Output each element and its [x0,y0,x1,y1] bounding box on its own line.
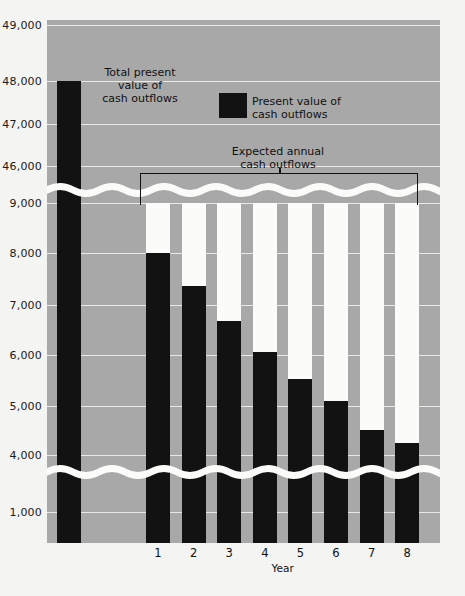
bar-present-value-cash-outflows [360,430,384,543]
y-axis-tick-label: 8,000 [0,247,47,260]
y-axis-tick-label: 5,000 [0,400,47,413]
annotation-total-present-value: Total present value of cash outflows [92,66,188,105]
gridline [47,25,440,26]
chart-figure: 49,00048,00047,00046,0009,0008,0007,0006… [0,0,465,596]
bar-expected-annual-cash-outflows [253,203,277,352]
bar-expected-annual-cash-outflows [182,203,206,286]
x-axis-tick-label: 4 [261,546,268,560]
bar-present-value-cash-outflows [182,286,206,543]
bar-present-value-cash-outflows [146,253,170,543]
expected-annual-bracket [140,173,418,205]
annotation-total-line1: Total present [92,66,188,79]
x-axis-tick-label: 3 [226,546,233,560]
legend-swatch-present-value [219,93,247,118]
bar-present-value-cash-outflows [395,443,419,543]
x-axis-tick-label: 8 [404,546,411,560]
legend-label-present-value: Present value of cash outflows [252,95,372,121]
y-axis-tick-label: 4,000 [0,449,47,462]
bar-total-present-value [57,81,81,543]
annotation-bracket-line2: cash outflows [216,158,340,171]
bar-present-value-cash-outflows [288,379,312,543]
annotation-bracket-line1: Expected annual [216,145,340,158]
y-axis-tick-label: 9,000 [0,197,47,210]
annotation-total-line3: cash outflows [92,92,188,105]
y-axis-tick-label: 1,000 [0,506,47,519]
bar-present-value-cash-outflows [217,321,241,543]
bar-expected-annual-cash-outflows [360,203,384,430]
y-axis-tick-label: 47,000 [0,118,47,131]
x-axis-tick-label: 7 [368,546,375,560]
bar-expected-annual-cash-outflows [324,203,348,401]
bar-present-value-cash-outflows [253,352,277,543]
x-axis-tick-label: 6 [332,546,339,560]
bar-expected-annual-cash-outflows [288,203,312,379]
bar-expected-annual-cash-outflows [217,203,241,321]
gridline [47,124,440,125]
bar-expected-annual-cash-outflows [395,203,419,443]
annotation-expected-annual: Expected annual cash outflows [216,145,340,171]
y-axis-tick-label: 46,000 [0,160,47,173]
legend-label-line1: Present value of [252,95,372,108]
legend-label-line2: cash outflows [252,108,372,121]
y-axis-tick-label: 6,000 [0,349,47,362]
bar-present-value-cash-outflows [324,401,348,543]
annotation-total-line2: value of [92,79,188,92]
x-axis-tick-label: 5 [297,546,304,560]
x-axis-title: Year [271,562,293,574]
x-axis-tick-label: 2 [190,546,197,560]
bar-expected-annual-cash-outflows [146,203,170,253]
y-axis-tick-label: 49,000 [0,19,47,32]
y-axis-tick-label: 48,000 [0,75,47,88]
x-axis-tick-label: 1 [154,546,161,560]
bracket-tick-icon [279,168,281,174]
y-axis-tick-label: 7,000 [0,299,47,312]
